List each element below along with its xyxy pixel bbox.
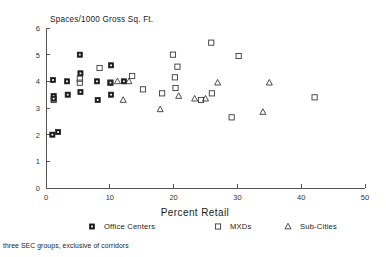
data-point — [65, 92, 70, 97]
x-tick-label: 40 — [297, 193, 305, 202]
x-tick-label: 10 — [106, 193, 114, 202]
legend-label-mxds: MXDs — [230, 222, 251, 231]
data-point — [97, 65, 102, 70]
data-point — [94, 79, 99, 84]
data-point — [108, 63, 113, 68]
data-point — [236, 53, 241, 58]
y-tick-label: 2 — [36, 131, 40, 140]
data-point — [229, 115, 234, 120]
data-point — [108, 80, 113, 85]
data-point — [108, 92, 113, 97]
data-point — [64, 79, 69, 84]
y-tick-label: 1 — [36, 157, 40, 166]
data-point — [78, 89, 83, 94]
x-axis-title: Percent Retail — [161, 207, 229, 218]
y-tick-label: 4 — [36, 77, 40, 86]
legend-marker-filled-square-with-dot — [89, 224, 94, 229]
data-point — [50, 132, 55, 137]
data-point — [266, 79, 272, 85]
series-sub-cities — [114, 78, 272, 114]
axis-tick-labels: 010203040500123456 — [36, 24, 369, 202]
plot-title: Spaces/1000 Gross Sq. Ft. — [50, 15, 153, 24]
data-point — [160, 91, 165, 96]
data-point — [51, 96, 56, 101]
x-tick-label: 50 — [361, 193, 369, 202]
plot-axes — [46, 28, 365, 188]
data-point — [140, 87, 145, 92]
scatter-plot: 010203040500123456 Spaces/1000 Gross Sq.… — [0, 0, 386, 257]
data-point — [120, 97, 126, 103]
legend: Office CentersMXDsSub-Cities — [89, 222, 337, 231]
legend-label-sub-cities: Sub-Cities — [300, 222, 337, 231]
axis-ticks — [46, 28, 365, 188]
x-tick-label: 20 — [169, 193, 177, 202]
data-point — [173, 85, 178, 90]
data-point — [170, 52, 175, 57]
data-point — [78, 71, 83, 76]
y-tick-label: 6 — [36, 24, 40, 33]
data-point — [172, 75, 177, 80]
legend-marker-open-triangle — [285, 223, 291, 229]
legend-label-office-centers: Office Centers — [104, 222, 155, 231]
data-point — [114, 78, 120, 84]
data-point — [192, 95, 198, 101]
series-mxds — [51, 40, 317, 120]
y-tick-label: 3 — [36, 104, 40, 113]
y-tick-label: 0 — [36, 184, 40, 193]
data-point — [260, 109, 266, 115]
data-point — [175, 64, 180, 69]
data-point — [215, 79, 221, 85]
data-point — [77, 52, 82, 57]
legend-marker-open-square — [215, 224, 220, 229]
chart-figure: 010203040500123456 Spaces/1000 Gross Sq.… — [0, 0, 386, 257]
x-tick-label: 30 — [233, 193, 241, 202]
data-point — [130, 73, 135, 78]
footnote: three SEC groups, exclusive of corridors — [3, 242, 129, 250]
series-office-centers — [50, 52, 127, 137]
data-points — [50, 40, 317, 137]
data-point — [312, 95, 317, 100]
data-point — [50, 77, 55, 82]
data-point — [209, 91, 214, 96]
y-tick-label: 5 — [36, 51, 40, 60]
x-tick-label: 0 — [44, 193, 48, 202]
data-point — [209, 40, 214, 45]
data-point — [95, 97, 100, 102]
data-point — [176, 93, 182, 99]
data-point — [56, 129, 61, 134]
data-point — [121, 79, 126, 84]
data-point — [157, 106, 163, 112]
